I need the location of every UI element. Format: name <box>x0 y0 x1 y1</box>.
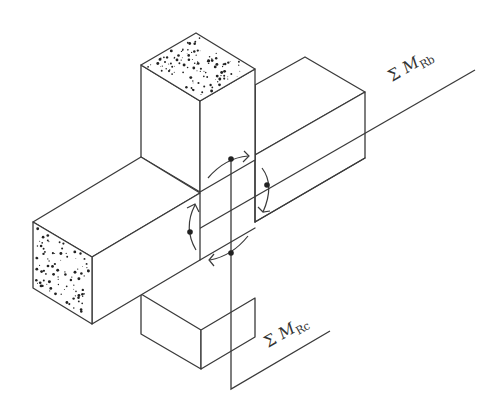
beam-column-joint-diagram: Σ MRb Σ MRc <box>0 0 490 419</box>
column-bottom <box>141 294 255 369</box>
beam-left <box>33 157 200 324</box>
svg-text:Σ MRc: Σ MRc <box>261 311 313 354</box>
svg-text:Σ MRb: Σ MRb <box>385 45 438 88</box>
label-column-moment: Σ MRc <box>261 311 313 354</box>
beam-right <box>255 57 365 222</box>
moment-arrow-bottom <box>210 236 248 260</box>
label-beam-moment: Σ MRb <box>385 45 438 88</box>
